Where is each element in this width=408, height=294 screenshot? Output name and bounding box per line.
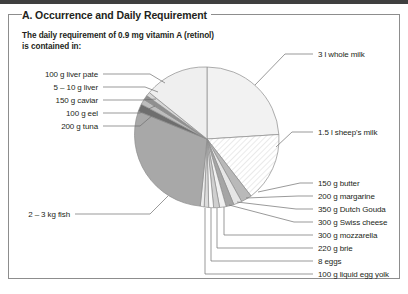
pie-label-margarine: 200 g margarine	[318, 192, 375, 201]
pie-label-fish: 2 – 3 kg fish	[0, 210, 70, 219]
pie-label-butter: 150 g butter	[318, 179, 360, 188]
pie-label-liver-pate: 100 g liver pate	[0, 70, 98, 79]
pie-label-caviar: 150 g caviar	[0, 96, 98, 105]
page-title: A. Occurrence and Daily Requirement	[22, 9, 211, 22]
pie-label-egg-yolk: 100 g liquid egg yolk	[318, 270, 389, 279]
pie-label-sheeps-milk: 1.5 l sheep's milk	[318, 128, 377, 137]
pie-label-eel: 100 g eel	[0, 109, 98, 118]
pie-label-whole-milk: 3 l whole milk	[318, 50, 365, 59]
pie-label-tuna: 200 g tuna	[0, 122, 98, 131]
pie-label-liver: 5 – 10 g liver	[0, 83, 98, 92]
pie-label-swiss-cheese: 300 g Swiss cheese	[318, 218, 387, 227]
intro-text: The daily requirement of 0.9 mg vitamin …	[22, 30, 222, 52]
pie-label-eggs: 8 eggs	[318, 257, 341, 266]
page-top-rule	[0, 0, 408, 4]
pie-label-brie: 220 g brie	[318, 244, 353, 253]
pie-label-mozzarella: 300 g mozzarella	[318, 231, 377, 240]
pie-label-dutch-gouda: 350 g Dutch Gouda	[318, 205, 386, 214]
